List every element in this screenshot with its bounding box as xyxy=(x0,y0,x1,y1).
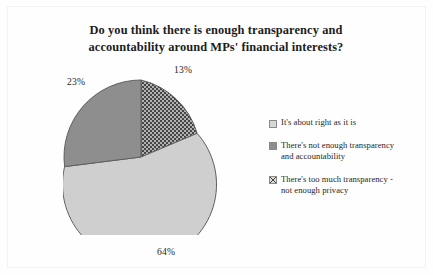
chart-figure: Do you think there is enough transparenc… xyxy=(0,0,433,275)
legend-label-line: and accountability xyxy=(281,151,345,161)
chart-legend: It's about right as it is There's not en… xyxy=(269,117,421,208)
legend-item-too-much-transparency[interactable]: There's too much transparency - not enou… xyxy=(269,174,421,197)
pie-label-about-right: 64% xyxy=(157,246,175,257)
chart-title: Do you think there is enough transparenc… xyxy=(46,22,386,56)
legend-label-too-much-transparency: There's too much transparency - not enou… xyxy=(281,174,393,197)
pie-chart xyxy=(63,79,219,235)
legend-label-not-enough-transparency: There's not enough transparency and acco… xyxy=(281,140,394,163)
legend-label-line: There's not enough transparency xyxy=(281,140,394,150)
pie-label-too-much-transparency: 13% xyxy=(174,64,192,75)
legend-item-about-right[interactable]: It's about right as it is xyxy=(269,117,421,129)
chart-title-line-2: accountability around MPs' financial int… xyxy=(46,39,386,56)
pie-chart-svg xyxy=(63,79,219,235)
legend-swatch-light-gray-icon xyxy=(269,120,277,128)
pie-label-not-enough-transparency: 23% xyxy=(67,76,85,87)
pie-slice-not-enough-transparency xyxy=(64,80,141,167)
legend-label-line: not enough privacy xyxy=(281,185,348,195)
legend-swatch-cross-hatch-icon xyxy=(269,176,277,184)
legend-label-line: There's too much transparency - xyxy=(281,174,393,184)
legend-item-not-enough-transparency[interactable]: There's not enough transparency and acco… xyxy=(269,140,421,163)
legend-label-line: It's about right as it is xyxy=(281,117,356,127)
legend-label-about-right: It's about right as it is xyxy=(281,117,356,129)
chart-title-line-1: Do you think there is enough transparenc… xyxy=(46,22,386,39)
legend-swatch-dark-gray-icon xyxy=(269,142,277,150)
